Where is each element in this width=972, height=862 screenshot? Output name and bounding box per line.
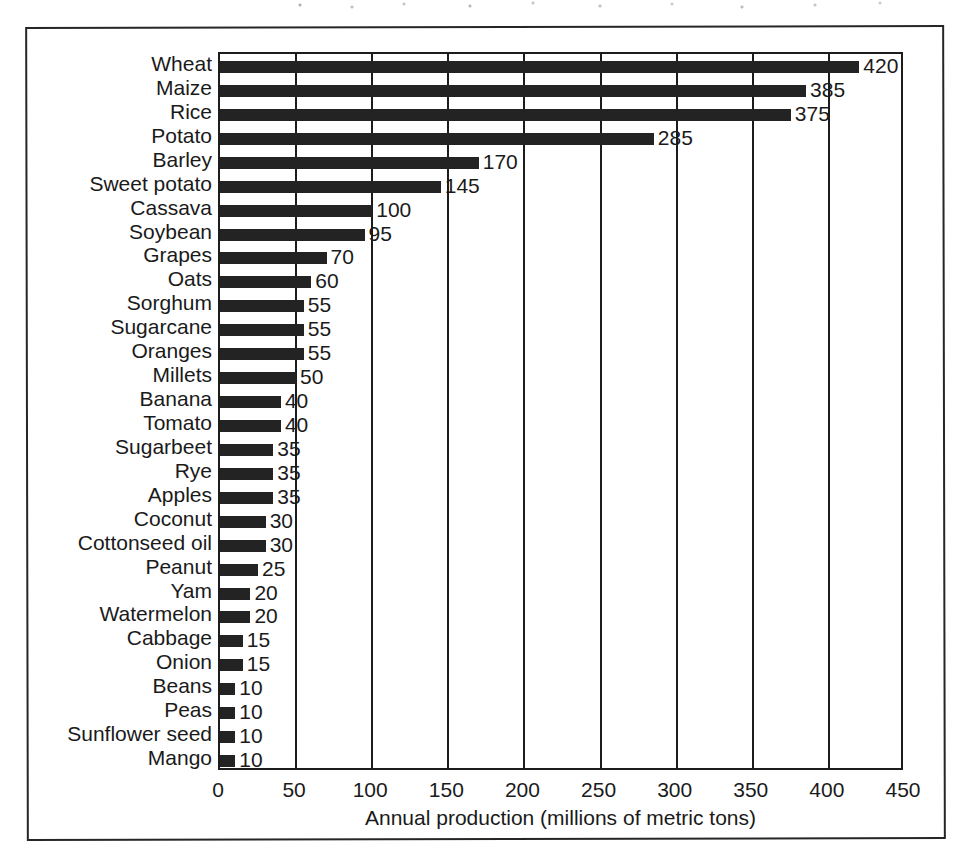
category-label: Maize — [0, 76, 212, 100]
category-label: Millets — [0, 363, 212, 387]
bar-row: 285 — [220, 126, 901, 150]
bar-row: 95 — [220, 222, 901, 246]
bar — [220, 420, 281, 432]
bar-value-label: 420 — [863, 54, 898, 79]
category-label: Rye — [0, 459, 212, 483]
bar-row: 375 — [220, 102, 901, 126]
category-label: Soybean — [0, 220, 212, 244]
bar-value-label: 15 — [247, 652, 270, 677]
bar — [220, 276, 311, 288]
category-axis-labels: WheatMaizeRicePotatoBarleySweet potatoCa… — [0, 52, 212, 770]
category-label: Barley — [0, 148, 212, 172]
x-tick-label: 350 — [733, 776, 768, 804]
category-label: Peanut — [0, 555, 212, 579]
category-label: Oranges — [0, 339, 212, 363]
bar-value-label: 55 — [308, 317, 331, 342]
bar-value-label: 30 — [270, 533, 293, 558]
bar — [220, 588, 250, 600]
category-label: Potato — [0, 124, 212, 148]
bar-value-label: 55 — [308, 293, 331, 318]
bar-row: 40 — [220, 389, 901, 413]
bar-row: 10 — [220, 700, 901, 724]
category-label: Cassava — [0, 196, 212, 220]
bar-value-label: 35 — [277, 437, 300, 462]
category-label: Wheat — [0, 52, 212, 76]
bar — [220, 540, 266, 552]
bar-value-label: 60 — [315, 269, 338, 294]
bar-value-label: 385 — [810, 78, 845, 103]
category-label: Yam — [0, 579, 212, 603]
bar — [220, 85, 806, 97]
plot-area: 4203853752851701451009570605555555040403… — [218, 52, 903, 770]
bar-value-label: 55 — [308, 341, 331, 366]
bar — [220, 252, 327, 264]
bar-row: 10 — [220, 676, 901, 700]
bar — [220, 300, 304, 312]
bar — [220, 659, 243, 671]
category-label: Beans — [0, 674, 212, 698]
category-label: Sunflower seed — [0, 722, 212, 746]
bar-value-label: 15 — [247, 628, 270, 653]
bar-value-label: 20 — [254, 581, 277, 606]
bar — [220, 109, 791, 121]
category-label: Rice — [0, 100, 212, 124]
bar-value-label: 40 — [285, 389, 308, 414]
bar — [220, 133, 654, 145]
bar-value-label: 20 — [254, 604, 277, 629]
x-tick-label: 100 — [353, 776, 388, 804]
value-axis-ticks: 050100150200250300350400450 — [0, 776, 972, 806]
bar-value-label: 35 — [277, 485, 300, 510]
bar-row: 55 — [220, 317, 901, 341]
bar-row: 55 — [220, 341, 901, 365]
x-tick-label: 450 — [885, 776, 920, 804]
category-label: Banana — [0, 387, 212, 411]
bar — [220, 564, 258, 576]
bar-value-label: 170 — [483, 150, 518, 175]
bar — [220, 444, 273, 456]
bar-row: 10 — [220, 724, 901, 748]
x-tick-label: 0 — [212, 776, 224, 804]
category-label: Cottonseed oil — [0, 531, 212, 555]
bar-row: 420 — [220, 54, 901, 78]
bar-row: 10 — [220, 748, 901, 772]
bar-value-label: 25 — [262, 557, 285, 582]
x-tick-label: 300 — [657, 776, 692, 804]
bar-row: 20 — [220, 581, 901, 605]
bar-row: 385 — [220, 78, 901, 102]
bar-chart: WheatMaizeRicePotatoBarleySweet potatoCa… — [0, 0, 972, 862]
bar-row: 30 — [220, 509, 901, 533]
bar-value-label: 100 — [376, 198, 411, 223]
bar-rows: 4203853752851701451009570605555555040403… — [220, 54, 901, 768]
bar-row: 55 — [220, 293, 901, 317]
category-label: Grapes — [0, 243, 212, 267]
x-tick-label: 400 — [809, 776, 844, 804]
category-label: Tomato — [0, 411, 212, 435]
bar-row: 25 — [220, 557, 901, 581]
bar — [220, 229, 365, 241]
category-label: Sweet potato — [0, 172, 212, 196]
category-label: Cabbage — [0, 626, 212, 650]
bar-row: 35 — [220, 437, 901, 461]
bar — [220, 372, 296, 384]
bar — [220, 181, 441, 193]
bar-value-label: 40 — [285, 413, 308, 438]
bar — [220, 707, 235, 719]
bar-row: 50 — [220, 365, 901, 389]
bar — [220, 205, 372, 217]
x-tick-label: 150 — [429, 776, 464, 804]
category-label: Sorghum — [0, 291, 212, 315]
x-axis-title: Annual production (millions of metric to… — [218, 806, 903, 830]
bar-value-label: 95 — [369, 222, 392, 247]
bar — [220, 348, 304, 360]
bar — [220, 492, 273, 504]
category-label: Onion — [0, 650, 212, 674]
bar-row: 170 — [220, 150, 901, 174]
bar-row: 70 — [220, 245, 901, 269]
bar — [220, 516, 266, 528]
bar-value-label: 70 — [331, 245, 354, 270]
category-label: Mango — [0, 746, 212, 770]
bar — [220, 157, 479, 169]
bar-row: 35 — [220, 461, 901, 485]
bar-row: 145 — [220, 174, 901, 198]
x-tick-label: 250 — [581, 776, 616, 804]
